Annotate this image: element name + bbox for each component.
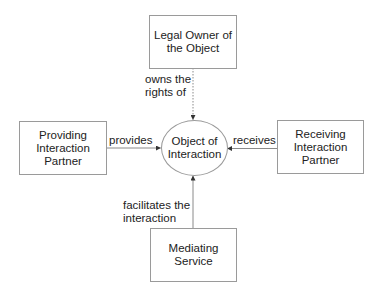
node-legal-owner-line-2: the Object (167, 42, 219, 55)
label-provides: provides (109, 134, 152, 147)
node-providing-partner-line-1: Providing (39, 129, 87, 142)
label-receives-text: receives (233, 134, 276, 147)
label-facilitates-line-1: facilitates the (123, 199, 190, 212)
label-provides-text: provides (109, 134, 152, 147)
node-providing-partner-line-2: Interaction (36, 142, 90, 155)
node-mediating-service-line-2: Service (174, 255, 212, 268)
node-providing-partner: Providing Interaction Partner (19, 121, 107, 175)
node-receiving-partner-line-2: Interaction (294, 141, 348, 154)
node-mediating-service-line-1: Mediating (169, 242, 219, 255)
label-owns-line-1: owns the (145, 73, 191, 86)
node-legal-owner: Legal Owner of the Object (149, 15, 237, 69)
label-facilitates-line-2: interaction (123, 212, 190, 225)
label-receives: receives (233, 134, 276, 147)
node-receiving-partner-line-3: Partner (302, 154, 340, 167)
node-mediating-service: Mediating Service (150, 228, 237, 282)
node-receiving-partner-line-1: Receiving (295, 128, 346, 141)
node-object-of-interaction: Object of Interaction (161, 120, 228, 176)
label-facilitates-the-interaction: facilitates the interaction (123, 199, 190, 225)
node-object-line-2: Interaction (168, 148, 222, 161)
node-legal-owner-line-1: Legal Owner of (154, 29, 232, 42)
label-owns-line-2: rights of (145, 86, 191, 99)
node-providing-partner-line-3: Partner (44, 155, 82, 168)
diagram-canvas: Legal Owner of the Object Providing Inte… (0, 0, 383, 302)
label-owns-the-rights-of: owns the rights of (145, 73, 191, 99)
node-receiving-partner: Receiving Interaction Partner (277, 120, 364, 174)
node-object-line-1: Object of (171, 135, 217, 148)
